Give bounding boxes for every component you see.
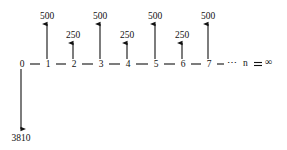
inflow-amount-label-period-6: 250 — [168, 30, 196, 40]
axis-terminal-value: ∞ — [265, 57, 272, 67]
axis-ellipsis: ⋯ — [227, 58, 237, 68]
inflow-amount-label-period-7: 500 — [194, 11, 222, 21]
inflow-amount-label-period-5: 500 — [141, 11, 169, 21]
axis-tick-label-5: 5 — [148, 59, 164, 69]
inflow-amount-label-period-1: 500 — [33, 11, 61, 21]
axis-tail-dashes — [254, 63, 262, 66]
inflow-amount-label-period-3: 500 — [86, 11, 114, 21]
axis-tick-label-0: 0 — [14, 59, 30, 69]
axis-tick-label-1: 1 — [40, 59, 56, 69]
axis-tick-label-6: 6 — [175, 59, 191, 69]
axis-tick-label-3: 3 — [93, 59, 109, 69]
inflow-amount-label-period-4: 250 — [113, 30, 141, 40]
inflow-amount-label-period-2: 250 — [59, 30, 87, 40]
axis-tick-label-7: 7 — [201, 59, 217, 69]
axis-terminal-variable: n — [243, 58, 248, 68]
axis-tick-label-4: 4 — [120, 59, 136, 69]
axis-tick-label-2: 2 — [66, 59, 82, 69]
cash-flow-diagram — [0, 0, 287, 150]
outflow-amount-label-period-0: 3810 — [5, 133, 37, 143]
